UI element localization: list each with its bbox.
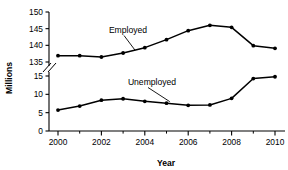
data-point-marker xyxy=(273,46,277,50)
data-point-marker xyxy=(78,104,82,108)
data-point-marker xyxy=(165,38,169,42)
y-axis-title: Millions xyxy=(4,62,14,94)
data-point-marker xyxy=(56,108,60,112)
data-point-marker xyxy=(56,54,60,58)
x-axis-tick-label: 2000 xyxy=(49,137,68,147)
data-point-marker xyxy=(165,101,169,105)
data-point-marker xyxy=(208,103,212,107)
data-point-marker xyxy=(100,55,104,59)
data-point-marker xyxy=(78,54,82,58)
data-point-marker xyxy=(143,99,147,103)
y-axis-tick-label: 5 xyxy=(38,108,43,118)
x-axis-tick-label: 2004 xyxy=(135,137,154,147)
y-axis-tick-label: 15 xyxy=(34,71,44,81)
data-point-marker xyxy=(121,97,125,101)
series-label-employed: Employed xyxy=(109,25,147,35)
x-axis-tick-label: 2010 xyxy=(266,137,285,147)
y-axis-tick-label: 145 xyxy=(29,24,43,34)
x-axis-tick-label: 2006 xyxy=(179,137,198,147)
data-point-marker xyxy=(186,103,190,107)
x-axis-title: Year xyxy=(157,158,176,168)
y-axis-tick-label: 150 xyxy=(29,7,43,17)
data-point-marker xyxy=(208,23,212,27)
y-axis-tick-label: 140 xyxy=(29,40,43,50)
y-axis-tick-label: 135 xyxy=(29,57,43,67)
series-label-unemployed: Unemployed xyxy=(128,77,176,87)
y-axis-tick-label: 10 xyxy=(34,89,44,99)
x-axis-tick-label: 2008 xyxy=(222,137,241,147)
data-point-marker xyxy=(100,98,104,102)
data-point-marker xyxy=(251,77,255,81)
data-point-marker xyxy=(251,44,255,48)
data-point-marker xyxy=(143,46,147,50)
y-axis-tick-label: 0 xyxy=(38,126,43,136)
data-point-marker xyxy=(230,96,234,100)
data-point-marker xyxy=(186,29,190,33)
chart-container: 150145140135151050 200020022004200620082… xyxy=(0,0,288,170)
data-point-marker xyxy=(273,75,277,79)
employment-line-chart: 150145140135151050 200020022004200620082… xyxy=(0,0,288,170)
x-axis-tick-label: 2002 xyxy=(92,137,111,147)
data-point-marker xyxy=(121,51,125,55)
data-point-marker xyxy=(230,25,234,29)
